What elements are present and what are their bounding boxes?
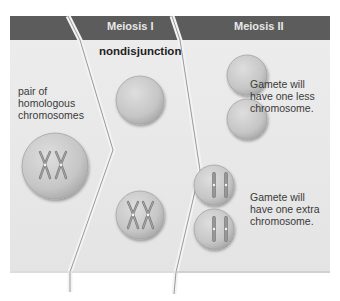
header-meiosis-1: Meiosis I (107, 20, 153, 32)
gamete-extra-label: Gamete will have one extra chromosome. (250, 191, 319, 227)
header-meiosis-2: Meiosis II (234, 20, 284, 32)
extra-line-2: have one extra (250, 203, 319, 215)
extra-line-3: chromosome. (250, 215, 319, 227)
meiosis-1-double-cell (116, 191, 164, 239)
less-line-1: Gamete will (250, 78, 315, 90)
nondisjunction-diagram: Meiosis I Meiosis II nondisjunction pair… (0, 0, 340, 301)
gamete-extra-2 (194, 209, 234, 249)
parent-cell-label: pair of homologous chromosomes (18, 85, 84, 121)
parent-label-line-3: chromosomes (18, 109, 84, 121)
extra-line-1: Gamete will (250, 191, 319, 203)
meiosis-1-empty-cell (116, 76, 164, 124)
title-nondisjunction: nondisjunction (99, 45, 181, 57)
parent-label-line-2: homologous (18, 97, 84, 109)
gamete-extra-1 (194, 165, 234, 205)
parent-cell (22, 133, 88, 199)
less-line-3: chromosome. (250, 102, 315, 114)
parent-label-line-1: pair of (18, 85, 84, 97)
gamete-less-label: Gamete will have one less chromosome. (250, 78, 315, 114)
less-line-2: have one less (250, 90, 315, 102)
